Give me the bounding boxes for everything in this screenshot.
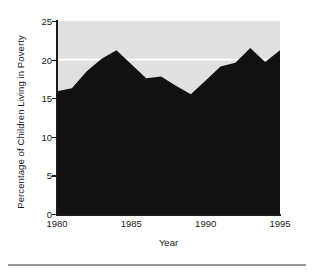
y-tick-label-25: 25 (26, 16, 52, 27)
x-tick-label-1980: 1980 (37, 218, 77, 229)
y-tick-label-10: 10 (26, 132, 52, 143)
y-tick-label-15: 15 (26, 93, 52, 104)
bottom-divider (8, 264, 306, 266)
y-tick-label-5: 5 (26, 170, 52, 181)
poverty-area-fill (57, 48, 280, 214)
plot-area (57, 21, 280, 214)
x-tick-label-1985: 1985 (111, 218, 151, 229)
x-axis-line (56, 214, 281, 216)
y-tick-label-20: 20 (26, 55, 52, 66)
y-axis-line (56, 20, 58, 215)
x-tick-label-1990: 1990 (186, 218, 226, 229)
x-axis-title: Year (57, 237, 280, 248)
area-chart-svg (57, 21, 280, 214)
chart-figure: Percentage of Children Living in Poverty… (0, 0, 314, 274)
y-axis-title: Percentage of Children Living in Poverty (14, 15, 28, 229)
x-tick-label-1995: 1995 (260, 218, 300, 229)
